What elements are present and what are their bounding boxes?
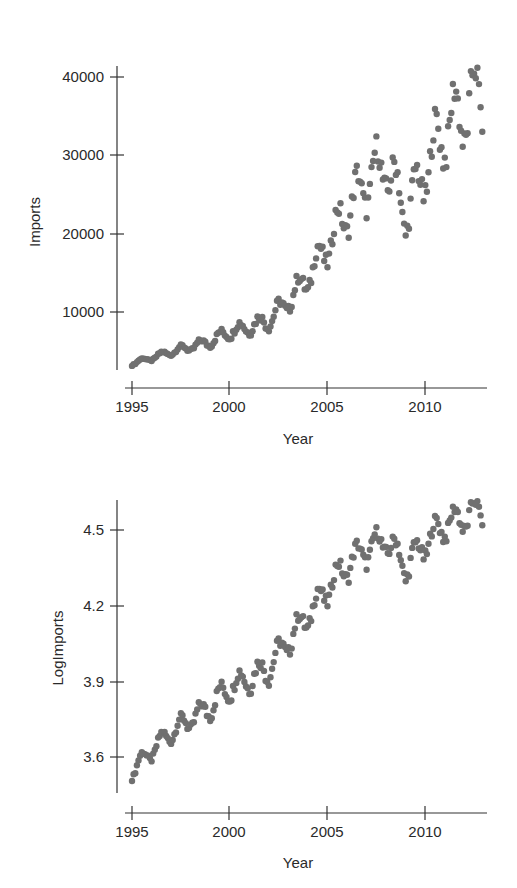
y-tick-label: 40000 [62,68,104,85]
data-point [403,232,409,238]
data-point [344,572,350,578]
data-point [259,659,265,665]
y-axis-ticks: 40000300002000010000 [62,68,124,320]
data-point [448,514,454,520]
data-point [153,743,159,749]
data-point [272,307,278,313]
data-point [443,538,449,544]
data-point [174,723,180,729]
data-point [394,169,400,175]
data-point [388,177,394,183]
data-point [430,526,436,532]
data-point [450,81,456,87]
data-point [447,117,453,123]
data-point [396,190,402,196]
data-point [407,555,413,561]
x-axis-ticks: 1995200020052010 [115,381,441,415]
data-point [271,659,277,665]
data-point [430,137,436,143]
data-point [420,556,426,562]
data-point [249,683,255,689]
data-point [269,666,275,672]
data-point [261,668,267,674]
data-point [453,88,459,94]
data-point [271,314,277,320]
data-point [479,522,485,528]
data-point [311,602,317,608]
data-point [373,524,379,530]
data-point [350,554,356,560]
x-tick-label: 2000 [212,823,245,840]
y-tick-label: 30000 [62,146,104,163]
data-point [427,148,433,154]
x-tick-label: 1995 [115,823,148,840]
data-point [209,715,215,721]
data-point [336,211,342,217]
data-point [132,770,138,776]
data-point [212,702,218,708]
x-tick-label: 2005 [310,823,343,840]
data-point [363,215,369,221]
data-point [191,719,197,725]
data-point [289,645,295,651]
data-point [365,554,371,560]
data-point [365,194,371,200]
data-point [129,778,135,784]
y-tick-label: 10000 [62,303,104,320]
data-point [406,573,412,579]
data-point [429,533,435,539]
data-point [474,498,480,504]
data-point [346,580,352,586]
data-point [336,564,342,570]
data-point [148,758,154,764]
data-point [249,328,255,334]
data-point [409,545,415,551]
y-tick-label: 4.2 [83,597,104,614]
data-point [324,603,330,609]
figure: 40000300002000010000 1995200020052010 Im… [0,0,517,888]
data-point [289,304,295,310]
data-point [326,592,332,598]
data-point [228,697,234,703]
data-point [386,188,392,194]
data-point [443,164,449,170]
data-point [326,250,332,256]
data-point [479,129,485,135]
data-point [292,625,298,631]
data-point [435,126,441,132]
data-point [476,504,482,510]
data-point [220,685,226,691]
data-point [414,162,420,168]
y-axis-title: Imports [26,197,43,247]
data-point [442,154,448,160]
data-point [394,541,400,547]
data-point [319,244,325,250]
data-point [308,280,314,286]
y-axis-ticks: 4.54.23.93.6 [83,521,124,765]
x-tick-label: 2010 [408,823,441,840]
data-point [240,673,246,679]
data-point [373,133,379,139]
x-axis-title: Year [283,854,313,871]
data-point [173,729,179,735]
data-point [261,319,267,325]
data-points [129,65,486,369]
data-point [313,595,319,601]
data-point [398,200,404,206]
imports-chart: 40000300002000010000 1995200020052010 Im… [26,65,487,447]
data-point [321,258,327,264]
data-point [363,567,369,573]
data-point [466,90,472,96]
data-point [218,679,224,685]
data-point [300,275,306,281]
data-point [337,557,343,563]
data-point [435,521,441,527]
data-point [331,231,337,237]
data-point [424,189,430,195]
data-point [448,110,454,116]
y-tick-label: 3.6 [83,748,104,765]
data-point [378,536,384,542]
data-point [399,209,405,215]
data-point [300,613,306,619]
data-point [372,150,378,156]
